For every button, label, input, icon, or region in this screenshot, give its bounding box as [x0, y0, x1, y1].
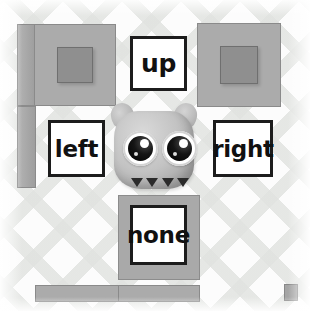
monster-tooth — [177, 178, 189, 187]
monster-tooth — [146, 178, 158, 187]
monster-eye-left — [123, 131, 158, 166]
monster-pupil-left — [128, 136, 153, 161]
crate-tile-top-left — [34, 24, 116, 106]
gray-monster-character — [108, 101, 200, 193]
left-button[interactable]: left — [48, 120, 105, 177]
monster-eye-glint-right — [179, 139, 188, 148]
monster-pupil-right — [167, 136, 192, 161]
up-button[interactable]: up — [130, 36, 187, 91]
monster-tooth — [162, 178, 174, 187]
monster-eye-glint-small-left — [134, 152, 138, 156]
wall-tile-left-lower — [17, 106, 36, 188]
monster-eye-glint-small-right — [173, 152, 177, 156]
small-block-bottom-right — [284, 284, 298, 301]
right-button[interactable]: right — [213, 120, 273, 177]
monster-eye-right — [162, 131, 197, 166]
crate-tile-top-right — [197, 23, 281, 107]
monster-body — [114, 111, 194, 189]
none-button[interactable]: none — [130, 205, 187, 265]
monster-tooth — [131, 178, 143, 187]
monster-teeth — [131, 178, 189, 187]
floor-tile-center — [118, 285, 200, 302]
monster-eye-glint-left — [140, 139, 149, 148]
game-scene: up left right none — [0, 0, 310, 311]
floor-tile-left — [35, 285, 119, 302]
